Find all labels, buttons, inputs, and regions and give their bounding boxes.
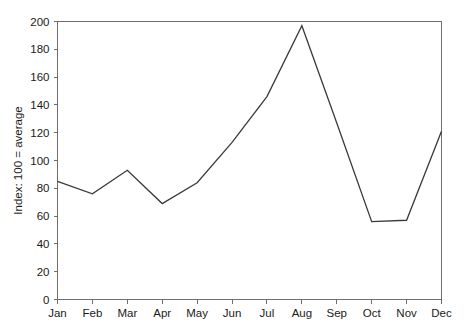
y-tick-label: 80: [37, 182, 50, 194]
y-tick-label: 140: [30, 99, 49, 111]
x-tick-label: Sep: [327, 307, 347, 319]
x-tick-label: Dec: [431, 307, 452, 319]
y-tick-label: 200: [30, 16, 49, 28]
y-tick-label: 120: [30, 127, 49, 139]
y-axis-ticks: 020406080100120140160180200: [30, 16, 57, 306]
chart-canvas: Index: 100 = average 0204060801001201401…: [0, 0, 464, 333]
data-series: [58, 26, 442, 222]
y-tick-label: 100: [30, 155, 49, 167]
y-tick-label: 60: [37, 210, 50, 222]
x-tick-label: Jun: [223, 307, 242, 319]
line-chart: Index: 100 = average 0204060801001201401…: [0, 0, 464, 333]
plot-border: [58, 22, 442, 300]
x-axis-ticks: JanFebMarAprMayJunJulAugSepOctNovDec: [48, 300, 452, 319]
y-tick-label: 180: [30, 43, 49, 55]
y-tick-label: 40: [37, 238, 50, 250]
x-tick-label: Apr: [153, 307, 171, 319]
x-tick-label: Nov: [396, 307, 417, 319]
y-tick-label: 20: [37, 266, 50, 278]
y-axis-title: Index: 100 = average: [12, 106, 24, 214]
series-line-index: [58, 26, 442, 222]
plot-frame: [58, 22, 442, 300]
y-tick-label: 0: [43, 294, 49, 306]
x-tick-label: Jul: [260, 307, 275, 319]
y-axis-title-text: Index: 100 = average: [12, 106, 24, 214]
y-tick-label: 160: [30, 71, 49, 83]
x-tick-label: Jan: [48, 307, 67, 319]
x-tick-label: Oct: [363, 307, 382, 319]
x-tick-label: Aug: [292, 307, 312, 319]
x-tick-label: May: [186, 307, 208, 319]
x-tick-label: Feb: [82, 307, 102, 319]
x-tick-label: Mar: [117, 307, 137, 319]
